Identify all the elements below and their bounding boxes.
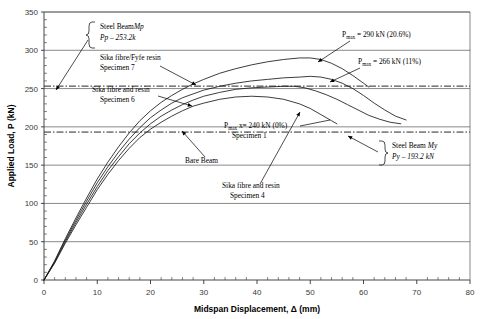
y-axis-title: Applied Load, P (kN)	[6, 104, 16, 187]
y-tick-label-150: 150	[25, 161, 39, 170]
curve-series-0	[44, 96, 337, 280]
anno-sika-fyfe-line1: Sika fibre/Fyfe resin	[100, 53, 161, 62]
x-tick-label-30: 30	[199, 288, 208, 297]
anno-sika-resin4-line2: Specimen 4	[230, 191, 265, 200]
anno-sika-resin6-line1: Sika fibre and resin	[92, 85, 150, 94]
y-tick-label-100: 100	[25, 199, 39, 208]
anno-pmax-290: Pmax = 290 kN (20.6%)	[342, 30, 411, 40]
anno-pmax-266: Pmax = 266 kN (11%)	[358, 57, 421, 67]
anno-steel-beam-mp-line1: Steel BeamMp	[100, 22, 144, 31]
anno-bare-beam: Bare Beam	[185, 156, 218, 165]
leader-sika-fyfe	[160, 66, 196, 85]
x-tick-label-40: 40	[253, 288, 262, 297]
anno-pmax-240: Pmax x= 240 kN (0%)	[224, 121, 288, 131]
brace-steel-beam-my	[379, 141, 388, 165]
leader-sika-resin6-head	[187, 103, 192, 107]
anno-steel-beam-my-line1: Steel Beam My	[392, 141, 438, 150]
y-tick-label-0: 0	[34, 276, 39, 285]
chart-container: 05010015020025030035001020304050607080Mi…	[0, 0, 491, 319]
y-tick-label-250: 250	[25, 85, 39, 94]
y-tick-label-50: 50	[29, 238, 38, 247]
leader-pmax-290	[318, 41, 350, 62]
anno-sika-fyfe-line2: Specimen 7	[100, 63, 135, 72]
x-tick-label-80: 80	[466, 288, 475, 297]
brace-steel-beam-mp	[86, 22, 95, 48]
leader-bare-beam	[182, 131, 205, 157]
x-tick-label-20: 20	[146, 288, 155, 297]
x-tick-label-0: 0	[42, 288, 47, 297]
y-tick-label-300: 300	[25, 46, 39, 55]
x-tick-label-10: 10	[93, 288, 102, 297]
load-displacement-chart: 05010015020025030035001020304050607080Mi…	[0, 0, 491, 319]
anno-steel-beam-mp-line2: Pp – 253.2k	[99, 33, 136, 42]
x-tick-label-60: 60	[359, 288, 368, 297]
y-tick-label-200: 200	[25, 123, 39, 132]
anno-sika-resin6-line2: Specimen 6	[100, 95, 135, 104]
leader-steel-beam-my	[348, 136, 378, 152]
anno-pmax-240-specimen: Specimen 1	[232, 131, 267, 140]
x-tick-label-50: 50	[306, 288, 315, 297]
leader-pmax-240	[300, 120, 330, 126]
y-tick-label-350: 350	[25, 8, 39, 17]
x-axis-title: Midspan Displacement, Δ (mm)	[194, 304, 320, 314]
x-tick-label-70: 70	[412, 288, 421, 297]
anno-steel-beam-my-line2: Py – 193.2 kN	[391, 152, 435, 161]
leader-steel-beam-mp	[56, 40, 88, 90]
anno-sika-resin4-line1: Sika fibre and resin	[222, 181, 280, 190]
